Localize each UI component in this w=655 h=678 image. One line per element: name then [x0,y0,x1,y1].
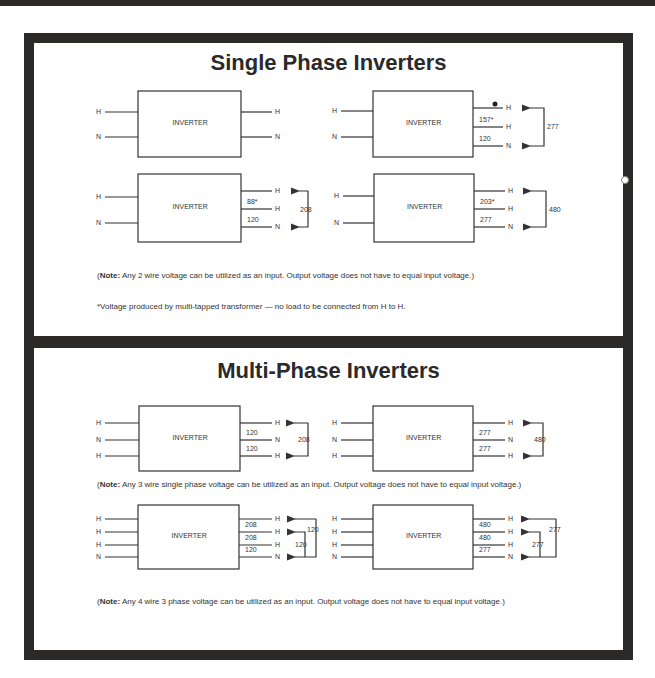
span-voltage-label: 480 [549,206,561,213]
input-terminal-label: H [96,419,101,426]
diagram-single-2 [341,91,544,157]
span-voltage-label: 480 [534,436,546,443]
diagram-multi-4 [341,505,556,569]
output-terminal-label: N [275,436,280,443]
output-terminal-label: H [508,205,513,212]
output-terminal-label: N [275,223,280,230]
tap-voltage-label: 120 [247,216,259,223]
span-voltage-label: 277 [549,526,561,533]
inverter-box-label: INVERTER [407,203,442,210]
single-phase-note: (Note: Any 2 wire voltage can be utilize… [97,271,474,280]
input-terminal-label: N [96,436,101,443]
tap-voltage-label: 480 [479,521,491,528]
multi-phase-note-4wire: (Note: Any 4 wire 3 phase voltage can be… [97,597,505,606]
input-terminal-label: H [334,192,339,199]
input-terminal-label: H [332,419,337,426]
tap-voltage-label: 120 [246,445,258,452]
tap-voltage-label: 208 [245,521,257,528]
multi-phase-title: Multi-Phase Inverters [34,358,623,384]
tap-voltage-label: 203* [480,198,494,205]
output-terminal-label: H [508,452,513,459]
diagram-single-4 [343,174,546,242]
tap-voltage-label: 277 [479,445,491,452]
input-terminal-label: H [96,108,101,115]
input-terminal-label: H [96,193,101,200]
output-terminal-label: H [275,452,280,459]
output-terminal-label: N [275,553,280,560]
tap-voltage-label: 277 [479,546,491,553]
input-terminal-label: H [96,528,101,535]
input-terminal-label: H [332,528,337,535]
input-terminal-label: H [332,452,337,459]
input-terminal-label: N [96,219,101,226]
input-terminal-label: H [96,515,101,522]
tap-voltage-label: 157* [479,116,493,123]
tap-voltage-label: 208 [245,534,257,541]
tap-voltage-label: 277 [480,216,492,223]
output-terminal-label: H [506,123,511,130]
span-voltage-label: 208 [298,436,310,443]
input-terminal-label: N [332,553,337,560]
inverter-box-label: INVERTER [406,434,441,441]
output-terminal-label: N [506,142,511,149]
span-voltage-label: 277 [547,123,559,130]
inverter-box-label: INVERTER [173,119,208,126]
span-voltage-label: 120 [307,526,319,533]
diagrams-canvas [0,0,655,678]
output-terminal-label: H [275,528,280,535]
input-terminal-label: N [96,553,101,560]
tap-voltage-label: 120 [245,546,257,553]
output-terminal-label: N [508,553,513,560]
inverter-box-label: INVERTER [173,434,208,441]
diagram-multi-3 [105,505,316,569]
input-terminal-label: H [332,515,337,522]
tap-dot-icon [493,102,498,107]
input-terminal-label: H [332,541,337,548]
tap-voltage-label: 88* [247,198,258,205]
output-terminal-label: H [508,528,513,535]
output-terminal-label: H [275,541,280,548]
input-terminal-label: N [332,133,337,140]
output-terminal-label: H [508,541,513,548]
input-terminal-label: H [332,107,337,114]
span-voltage-label: 277 [532,541,544,548]
tap-voltage-label: 480 [479,534,491,541]
span-voltage-label: 120 [295,541,307,548]
single-phase-footnote: *Voltage produced by multi-tapped transf… [97,302,406,311]
tap-voltage-label: 120 [246,429,258,436]
output-terminal-label: H [508,515,513,522]
tap-voltage-label: 277 [479,429,491,436]
output-terminal-label: N [508,436,513,443]
input-terminal-label: N [332,436,337,443]
output-terminal-label: H [275,419,280,426]
multi-phase-note-3wire: (Note: Any 3 wire single phase voltage c… [97,480,521,489]
output-terminal-label: H [506,104,511,111]
input-terminal-label: N [334,219,339,226]
output-terminal-label: H [275,205,280,212]
output-terminal-label: N [508,223,513,230]
tap-voltage-label: 120 [479,135,491,142]
span-voltage-label: 208 [300,206,312,213]
inverter-box-label: INVERTER [173,203,208,210]
input-terminal-label: N [96,133,101,140]
output-terminal-label: N [275,133,280,140]
input-terminal-label: H [96,541,101,548]
output-terminal-label: H [275,187,280,194]
inverter-box-label: INVERTER [406,119,441,126]
inverter-box-label: INVERTER [406,532,441,539]
output-terminal-label: H [508,419,513,426]
output-terminal-label: H [275,515,280,522]
input-terminal-label: H [96,452,101,459]
output-terminal-label: H [508,187,513,194]
output-terminal-label: H [275,108,280,115]
inverter-box-label: INVERTER [172,532,207,539]
